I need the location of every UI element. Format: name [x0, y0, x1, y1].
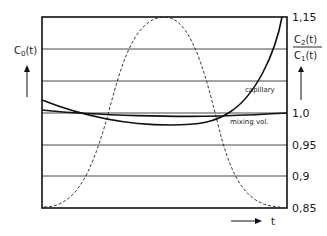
left-axis-arrow-icon [24, 65, 30, 97]
tick-0-9: 0,9 [292, 170, 310, 183]
right-axis-arrow-icon [298, 66, 304, 100]
capillary-label: capillary [245, 86, 275, 94]
svg-text:C2(t): C2(t) [294, 34, 317, 47]
x-axis-label: t [271, 216, 275, 227]
x-axis-arrow-icon [231, 218, 262, 224]
tick-1-15: 1,15 [292, 11, 317, 24]
tick-1-0: 1,0 [292, 107, 310, 120]
tick-0-95: 0,95 [292, 139, 317, 152]
capillary-curve [42, 17, 282, 125]
chart-canvas: capillary mixing vol. 1,15 1,0 0,95 0,9 … [0, 0, 327, 236]
svg-text:C0(t): C0(t) [14, 45, 37, 58]
right-axis-label: C2(t) C1(t) [293, 34, 322, 63]
left-axis-label: C0(t) [14, 45, 37, 58]
tick-0-85: 0,85 [292, 202, 317, 215]
mixing-vol-label: mixing vol. [230, 118, 269, 126]
svg-text:C1(t): C1(t) [294, 50, 317, 63]
